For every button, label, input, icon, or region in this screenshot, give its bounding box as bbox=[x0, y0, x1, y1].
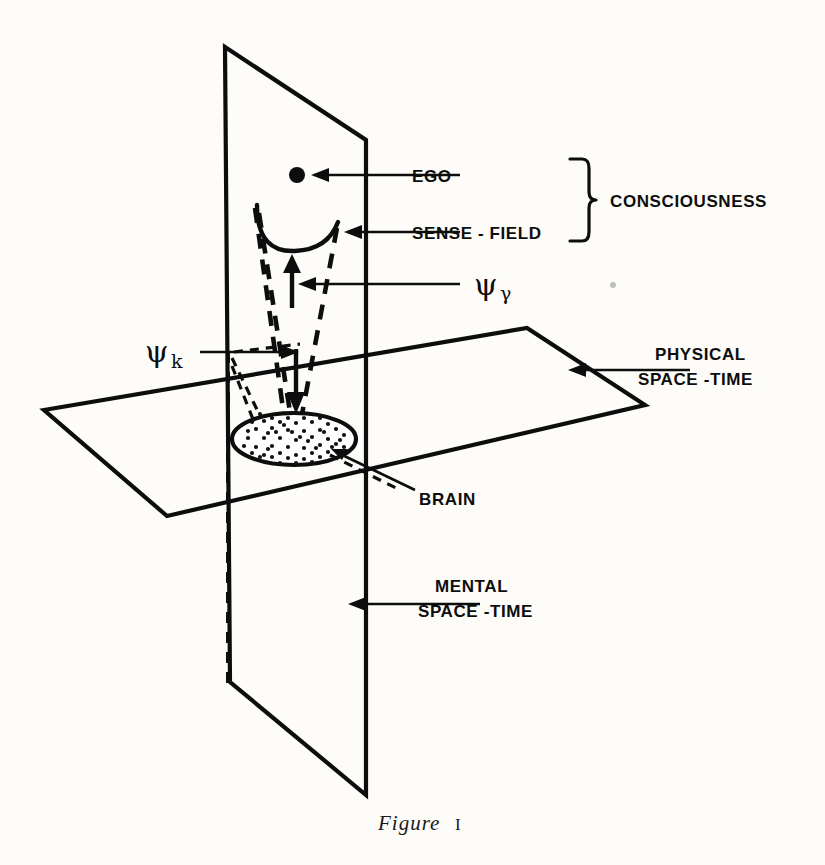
flow-dash-left bbox=[259, 213, 292, 425]
caption-word: Figure bbox=[377, 811, 440, 835]
label-ego: EGO bbox=[412, 167, 452, 186]
figure-1-diagram: EGO SENSE - FIELD CONSCIOUSNESS ψ γ ψ k … bbox=[0, 0, 825, 865]
scan-speck-artifact bbox=[610, 282, 616, 288]
label-sense-field: SENSE - FIELD bbox=[412, 224, 542, 243]
ego-point bbox=[289, 167, 305, 183]
label-brain: BRAIN bbox=[419, 490, 476, 509]
label-psi-k: ψ k bbox=[145, 334, 183, 372]
label-mental-line2: SPACE -TIME bbox=[418, 602, 533, 621]
label-consciousness: CONSCIOUSNESS bbox=[610, 192, 767, 211]
figure-caption: Figure I bbox=[377, 811, 461, 835]
caption-number: I bbox=[455, 815, 461, 834]
label-physical-line1: PHYSICAL bbox=[655, 345, 746, 364]
figure-page: EGO SENSE - FIELD CONSCIOUSNESS ψ γ ψ k … bbox=[0, 0, 825, 865]
psi-k-leader bbox=[200, 345, 299, 359]
label-mental-line1: MENTAL bbox=[435, 577, 508, 596]
consciousness-brace bbox=[570, 159, 596, 241]
flow-dash-left-outer bbox=[255, 208, 286, 430]
psi-gamma-subscript: γ bbox=[500, 282, 511, 304]
psi-gamma-symbol: ψ bbox=[474, 267, 498, 302]
psi-k-subscript: k bbox=[171, 350, 183, 372]
label-physical-line2: SPACE -TIME bbox=[638, 370, 753, 389]
flow-dash-right bbox=[300, 228, 337, 425]
psi-gamma-leader bbox=[298, 277, 460, 291]
label-psi-gamma: ψ γ bbox=[474, 267, 511, 304]
psi-gamma-arrow bbox=[283, 254, 301, 308]
brain-leader bbox=[330, 449, 415, 490]
sense-field-curve bbox=[257, 205, 338, 251]
psi-k-symbol: ψ bbox=[145, 334, 169, 369]
